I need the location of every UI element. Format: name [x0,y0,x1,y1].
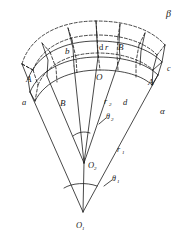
label-beta: β [165,8,171,19]
label-r2-base: r [104,97,108,106]
alpha-inner-arc [35,70,152,101]
label-theta1-sub: 1 [117,179,120,184]
label-O2: O 2 [88,160,97,171]
geometry-figure: β α b d r B c A A O a B d r 2 θ 2 r 1 O … [0,0,191,241]
label-theta2-sub: 2 [111,117,114,122]
label-alpha: α [160,106,165,116]
label-c: c [167,64,171,73]
theta1-leader [104,180,112,186]
label-r1-sub: 1 [122,150,125,155]
label-d: d [123,97,128,107]
label-theta1: θ 1 [112,174,120,184]
cone1-line-right [83,75,158,212]
label-B-bottom: B [60,98,66,108]
label-O1: O 1 [76,220,85,231]
slab-divider-3 [96,21,98,57]
label-theta2: θ 2 [106,112,114,122]
theta2-leader [99,118,106,124]
label-r2-sub: 2 [109,102,112,107]
beta-radial-5 [139,33,145,45]
cone1-line-center [83,163,84,212]
label-O1-sub: 1 [82,226,85,231]
slab-divider-5-dashed [136,45,139,77]
cone2-line-left [47,76,84,163]
theta1-arc [64,184,97,188]
label-dr-d: d [99,42,104,52]
beta-inner-arc [33,35,157,70]
label-theta2-base: θ [106,112,110,121]
diagram-canvas: β α b d r B c A A O a B d r 2 θ 2 r 1 O … [0,0,191,241]
cone1-line-left [30,92,83,212]
label-B-top: B [118,42,124,52]
cone2-line-1 [74,66,84,163]
label-r1-base: r [117,145,121,154]
label-theta1-base: θ [112,174,116,183]
label-r1: r 1 [117,145,125,155]
label-A-left: A [25,74,32,84]
label-O: O [96,72,103,82]
label-r2: r 2 [104,97,112,107]
slab-divider-1 [42,43,48,76]
label-b: b [65,46,70,56]
label-a: a [22,97,26,107]
label-A-right: A [147,77,154,87]
label-O2-sub: 2 [94,166,97,171]
label-dr-r: r [105,42,109,52]
